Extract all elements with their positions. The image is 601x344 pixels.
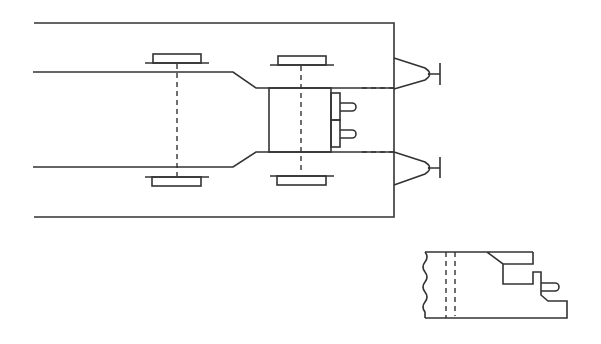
hitch-upper [394,58,440,89]
connector-pin [340,103,356,111]
hitch-lower [394,152,440,185]
wheel-top-left-body [153,54,201,63]
break-line [423,252,427,318]
detail-pin [541,283,559,291]
wheel-bottom-right-body [277,176,326,185]
connector-plate [331,93,340,120]
side-detail-view [423,252,567,318]
wheel-bottom-left-body [152,177,201,186]
diagram-canvas [0,0,601,344]
connector-pin [340,130,356,138]
central-block [269,88,331,152]
upper-rail [33,72,394,88]
connector-plate [331,120,340,147]
lower-rail [33,152,394,167]
wheel-top-right-body [278,56,326,65]
plan-view [33,23,440,217]
